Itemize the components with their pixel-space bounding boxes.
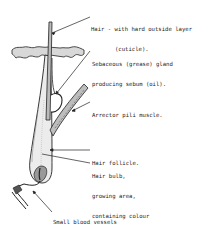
label-bulb-line-1: Hair bulb, — [92, 173, 149, 180]
label-bulb-line-2: growing area, — [92, 193, 149, 200]
label-sebaceous-line-1: Sebaceous (grease) gland — [92, 61, 173, 68]
label-sebaceous-gland: Sebaceous (grease) gland producing sebum… — [92, 48, 173, 101]
label-arrector-line-1: Arrector pili muscle. — [92, 112, 163, 119]
label-vessels-line-1: Small blood vessels — [53, 219, 120, 226]
blood-vessels — [12, 181, 40, 209]
sebaceous-gland — [51, 58, 62, 112]
label-arrector-pili: Arrector pili muscle. — [92, 99, 163, 132]
hair-follicle-diagram: Hair - with hard outside layer (cuticle)… — [0, 0, 202, 231]
label-sebaceous-line-2: producing sebum (oil). — [92, 81, 173, 88]
label-blood-vessels: Small blood vessels supplying hair bulb. — [53, 206, 120, 231]
label-hair-line-1: Hair - with hard outside layer — [91, 26, 192, 33]
